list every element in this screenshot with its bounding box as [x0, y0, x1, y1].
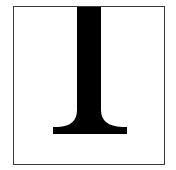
serif-i-glyph-icon: [0, 0, 176, 170]
